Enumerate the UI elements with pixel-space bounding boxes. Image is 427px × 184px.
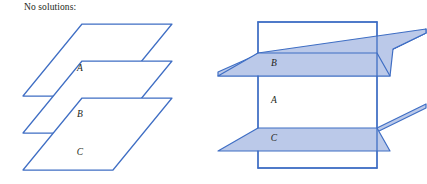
plane-c-shape [218,128,390,151]
left-plane-label-c: C [77,147,84,157]
plane-c-far-wing [377,104,426,132]
right-plane-label-c: C [271,133,278,143]
plane-b-front [218,53,390,76]
right-plane-label-b: B [271,58,277,68]
left-plane-label-a: A [76,63,83,73]
no-solutions-figure: No solutions: A B C [0,0,427,184]
left-diagram: A B C [0,0,214,184]
left-diagram-svg: A B C [0,0,214,184]
right-plane-label-a: A [270,95,277,105]
right-diagram-svg: B A C [213,0,427,184]
right-diagram: B A C [213,0,427,184]
left-plane-label-b: B [77,109,83,119]
